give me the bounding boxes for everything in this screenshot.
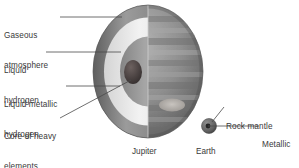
layer-core-of-heavy-elements [124,60,142,84]
leader-rock-mantle [212,107,224,122]
label-liquid-metallic-hydrogen-line1: Liquid metallic [4,100,57,110]
label-core-of-heavy-elements: Core of heavy elements [4,112,56,168]
caption-jupiter: Jupiter [132,147,157,157]
great-red-spot [159,99,185,112]
label-gaseous-atmosphere-line1: Gaseous [4,31,48,41]
label-core-of-heavy-elements-line2: elements [4,162,56,168]
label-core-of-heavy-elements-line1: Core of heavy [4,132,56,142]
jupiter-sphere [93,5,203,138]
label-metallic-core-line1: Metallic [262,140,291,150]
label-metallic-core: Metallic core [262,120,291,168]
caption-earth: Earth [196,147,216,157]
jupiter-earth-structure-figure: Gaseous atmosphere Liquid hydrogen Liqui… [0,0,299,168]
label-liquid-hydrogen-line1: Liquid [4,66,39,76]
